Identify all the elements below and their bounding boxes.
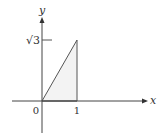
y-axis-arrow-icon [40, 17, 45, 23]
x-axis-arrow-icon [142, 99, 148, 104]
origin-label: 0 [33, 105, 39, 116]
x-axis-label: x [150, 94, 157, 107]
x-tick-label-1: 1 [74, 105, 80, 116]
coordinate-plane: y x 0 1 √3 [0, 0, 166, 140]
y-axis-label: y [38, 4, 46, 17]
y-tick-label-sqrt3: √3 [26, 34, 40, 47]
diagram-canvas: y x 0 1 √3 [0, 0, 166, 140]
